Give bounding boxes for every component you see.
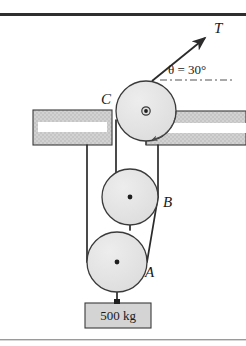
mass-block: 500 kg (85, 299, 151, 328)
pulley-a-label: A (144, 264, 155, 280)
pulley-a (87, 232, 147, 292)
pulley-c-label: C (101, 91, 112, 107)
pulley-a-axle (115, 260, 120, 265)
mass-label: 500 kg (100, 308, 136, 323)
pulley-c-axle (144, 109, 148, 113)
pulley-system-figure: 500 kg T θ = 30° C B A (0, 0, 246, 346)
bottom-rule (0, 339, 246, 340)
pulley-b-axle (128, 195, 133, 200)
mass-block-lug (114, 299, 120, 304)
angle-label: θ = 30° (168, 62, 206, 77)
pulley-b-label: B (163, 194, 172, 210)
left-bracket-slot (38, 122, 107, 132)
pulley-c (116, 81, 176, 141)
top-rule (0, 13, 246, 16)
pulley-b (102, 169, 158, 225)
diagram-canvas: 500 kg T θ = 30° C B A (0, 0, 246, 346)
left-wall-bracket (33, 110, 112, 145)
